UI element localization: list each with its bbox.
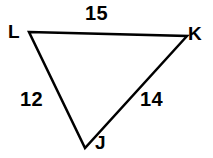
vertex-label-l: L — [8, 22, 20, 41]
vertex-label-j: J — [95, 133, 106, 152]
side-length-jk: 14 — [140, 89, 163, 109]
vertex-label-k: K — [188, 24, 202, 43]
triangle-figure: L K J 15 12 14 — [0, 0, 213, 158]
side-length-lj: 12 — [20, 89, 43, 109]
side-length-lk: 15 — [85, 3, 108, 23]
triangle-outline — [29, 32, 187, 148]
